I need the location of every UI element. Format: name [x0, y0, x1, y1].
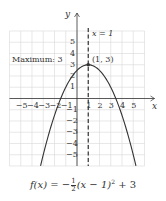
x-axis-label: x: [152, 102, 157, 111]
x-tick-label: 3: [109, 102, 114, 110]
y-tick-label: 2: [70, 72, 75, 80]
maximum-label: Maximum: 3: [12, 56, 63, 64]
y-tick-label: −3: [66, 128, 78, 136]
y-axis-label: y: [65, 10, 70, 19]
y-tick-label: −5: [66, 151, 78, 159]
x-tick-label: −5: [16, 102, 28, 110]
y-tick-label: −2: [66, 117, 78, 125]
y-tick-label: 4: [70, 50, 75, 58]
y-tick-label: 5: [70, 38, 75, 46]
y-tick-label: 3: [70, 61, 75, 69]
x-tick-label: 1: [86, 102, 91, 110]
x-tick-label: 4: [120, 102, 125, 110]
vertex-label: (1, 3): [92, 56, 114, 64]
vertex-point: [86, 63, 90, 67]
axes: [10, 13, 155, 166]
x-tick-label: −2: [50, 102, 62, 110]
x-tick-label: 5: [131, 102, 136, 110]
x-tick-label: −4: [27, 102, 39, 110]
x-tick-label: 2: [98, 102, 103, 110]
x-tick-label: −3: [38, 102, 50, 110]
function-formula: f(x) = −12(x − 1)2 + 3: [0, 178, 166, 193]
y-tick-label: −4: [66, 140, 78, 148]
y-tick-label: 1: [70, 83, 75, 91]
symmetry-label: x = 1: [92, 30, 113, 38]
y-tick-label: −1: [66, 106, 78, 114]
